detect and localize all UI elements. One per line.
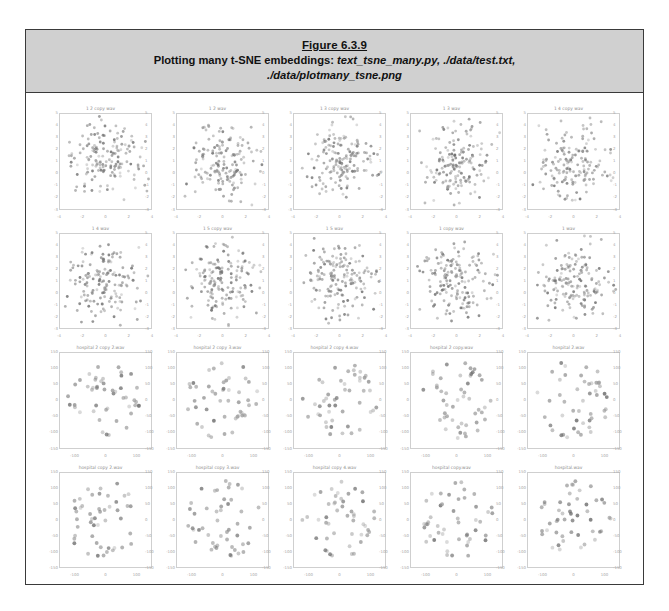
scatter-panel[interactable]: 1 wav-3-3-2-2-1-1001122334455-4-2024 <box>510 222 627 342</box>
y-tick-label: 0 <box>393 171 409 175</box>
y-tick-label: 1 <box>144 279 159 283</box>
y-tick-label: 2 <box>261 147 276 151</box>
scatter-panel[interactable]: hospital copy 4.wav-150-150-100-100-50-5… <box>276 461 393 581</box>
scatter-panel[interactable]: hospital 2 copy 4.wav-150-150-100-100-50… <box>276 341 393 461</box>
scatter-panel[interactable]: 1 4 copy wav-3-3-2-2-1-1001122334455-4-2… <box>510 102 627 222</box>
y-tick-label: -100 <box>495 430 510 434</box>
y-tick-label: 3 <box>159 135 175 139</box>
scatter-panel[interactable]: 1 5 copy wav-3-3-2-2-1-1001122334455-4-2… <box>159 222 276 342</box>
y-tick-label: 2 <box>42 267 58 271</box>
x-tick-label: 2 <box>245 334 247 338</box>
x-tick-label: 100 <box>601 573 608 577</box>
y-tick-label: -1 <box>159 303 175 307</box>
x-tick-label: -2 <box>548 215 552 219</box>
scatter-panel[interactable]: hospital copy 2.wav-150-150-100-100-50-5… <box>42 461 159 581</box>
scatter-panel[interactable]: 1 2 wav-3-3-2-2-1-1001122334455-4-2024 <box>159 102 276 222</box>
panel-axes <box>293 233 386 330</box>
y-tick-label: -3 <box>495 208 510 212</box>
x-tick-label: -100 <box>304 454 313 458</box>
y-tick-label: 0 <box>42 291 58 295</box>
y-tick-label: -3 <box>261 327 276 331</box>
scatter-panel[interactable]: hospital 2 copy 2.wav-150-150-100-100-50… <box>42 341 159 461</box>
y-tick-label: 5 <box>393 111 409 115</box>
y-tick-label: -2 <box>159 195 175 199</box>
y-tick-label: -2 <box>261 195 276 199</box>
y-tick-label: 0 <box>159 291 175 295</box>
y-tick-label: 100 <box>159 366 175 370</box>
x-tick-label: 0 <box>104 573 106 577</box>
y-tick-label: 50 <box>378 382 393 386</box>
y-tick-label: 100 <box>510 486 526 490</box>
y-tick-label: -2 <box>159 315 175 319</box>
y-tick-label: 50 <box>276 382 292 386</box>
y-tick-label: -150 <box>510 447 526 451</box>
y-tick-label: -100 <box>393 430 409 434</box>
y-tick-label: -150 <box>42 566 58 570</box>
panel-title: 1 2 copy wav <box>42 104 159 113</box>
y-tick-label: 0 <box>378 518 393 522</box>
scatter-panel[interactable]: hospital 2 copy 3.wav-150-150-100-100-50… <box>159 341 276 461</box>
x-tick-label: -4 <box>174 334 178 338</box>
panel-axes <box>410 233 503 330</box>
y-tick-label: 2 <box>393 147 409 151</box>
y-tick-label: 0 <box>42 171 58 175</box>
x-tick-label: -4 <box>57 215 61 219</box>
y-tick-label: -2 <box>393 195 409 199</box>
x-tick-label: -2 <box>431 215 435 219</box>
y-tick-label: -3 <box>276 208 292 212</box>
x-tick-label: -100 <box>538 454 547 458</box>
x-tick-label: -100 <box>538 573 547 577</box>
y-tick-label: -1 <box>276 183 292 187</box>
scatter-panel[interactable]: 1 4 wav-3-3-2-2-1-1001122334455-4-2024 <box>42 222 159 342</box>
panel-axes <box>293 352 386 449</box>
y-tick-label: -100 <box>144 550 159 554</box>
y-tick-label: -2 <box>144 315 159 319</box>
y-tick-label: -1 <box>612 303 627 307</box>
scatter-panel[interactable]: 1 3 wav-3-3-2-2-1-1001122334455-4-2024 <box>393 102 510 222</box>
y-tick-label: 100 <box>612 486 627 490</box>
y-tick-label: -50 <box>276 534 292 538</box>
scatter-panel[interactable]: hospital 2.wav-150-150-100-100-50-500050… <box>510 341 627 461</box>
y-tick-label: 5 <box>144 111 159 115</box>
y-tick-label: -100 <box>42 550 58 554</box>
y-tick-label: -50 <box>495 414 510 418</box>
y-tick-label: 0 <box>144 291 159 295</box>
y-tick-label: 0 <box>612 171 627 175</box>
y-tick-label: -100 <box>510 550 526 554</box>
scatter-panel[interactable]: 1 3 copy wav-3-3-2-2-1-1001122334455-4-2… <box>276 102 393 222</box>
y-tick-label: -50 <box>42 414 58 418</box>
y-tick-label: 3 <box>276 255 292 259</box>
x-tick-label: 0 <box>104 215 106 219</box>
x-tick-label: 0 <box>338 454 340 458</box>
y-tick-label: 4 <box>378 123 393 127</box>
y-tick-label: 100 <box>276 366 292 370</box>
x-tick-label: 100 <box>367 573 374 577</box>
panel-title: 1 5 copy wav <box>159 223 276 232</box>
y-tick-label: 5 <box>510 111 526 115</box>
y-tick-label: 4 <box>495 123 510 127</box>
y-tick-label: 1 <box>261 159 276 163</box>
y-tick-label: -150 <box>42 447 58 451</box>
y-tick-label: 5 <box>612 231 627 235</box>
scatter-panel[interactable]: hospital copy 3.wav-150-150-100-100-50-5… <box>159 461 276 581</box>
panel-title: 1 copy wav <box>393 223 510 232</box>
scatter-panel[interactable]: 1 copy wav-3-3-2-2-1-1001122334455-4-202… <box>393 222 510 342</box>
scatter-panel[interactable]: hospital.wav-150-150-100-100-50-50005050… <box>510 461 627 581</box>
y-tick-label: 0 <box>42 518 58 522</box>
x-tick-label: 0 <box>221 215 223 219</box>
scatter-panel[interactable]: hospital 2 copy.wav-150-150-100-100-50-5… <box>393 341 510 461</box>
caption-files-line-1: text_tsne_many.py, ./data/test.txt, <box>337 54 515 66</box>
x-tick-label: 4 <box>151 334 153 338</box>
y-tick-label: -2 <box>144 195 159 199</box>
y-tick-label: -50 <box>261 414 276 418</box>
scatter-panel[interactable]: 1 5 wav-3-3-2-2-1-1001122334455-4-2024 <box>276 222 393 342</box>
x-tick-label: 0 <box>221 573 223 577</box>
y-tick-label: 3 <box>42 135 58 139</box>
y-tick-label: -3 <box>378 208 393 212</box>
y-tick-label: -3 <box>42 327 58 331</box>
scatter-panel[interactable]: hospital copy.wav-150-150-100-100-50-500… <box>393 461 510 581</box>
y-tick-label: 4 <box>612 243 627 247</box>
y-tick-label: 50 <box>144 382 159 386</box>
y-tick-label: 3 <box>393 255 409 259</box>
scatter-panel[interactable]: 1 2 copy wav-3-3-2-2-1-1001122334455-4-2… <box>42 102 159 222</box>
